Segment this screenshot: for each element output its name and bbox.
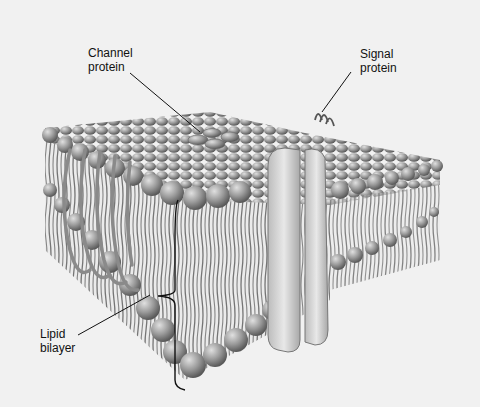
signal-protein-loops <box>315 114 334 126</box>
label-channel-protein: Channel protein <box>88 46 133 74</box>
transmembrane-channel <box>268 148 328 352</box>
label-lipid-bilayer: Lipid bilayer <box>40 327 75 355</box>
label-signal-protein: Signal protein <box>360 47 397 75</box>
membrane-diagram: Channel protein Signal protein Lipid bil… <box>0 0 480 407</box>
